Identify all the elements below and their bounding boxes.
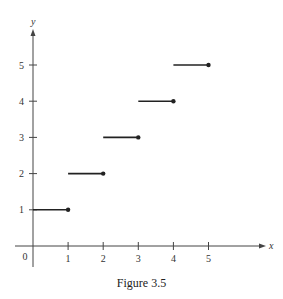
x-tick-label: 1: [66, 253, 71, 264]
y-tick-label: 5: [19, 60, 24, 71]
closed-endpoint-dot: [136, 135, 140, 139]
step-function-chart: xy01234512345: [0, 0, 283, 275]
x-axis-arrow-icon: [259, 244, 266, 249]
y-tick-label: 3: [19, 132, 24, 143]
x-tick-label: 5: [206, 253, 211, 264]
y-tick-label: 2: [19, 168, 24, 179]
y-axis-label: y: [30, 16, 36, 27]
y-tick-label: 4: [19, 96, 24, 107]
y-axis-arrow-icon: [31, 29, 36, 36]
closed-endpoint-dot: [101, 171, 105, 175]
closed-endpoint-dot: [66, 208, 70, 212]
x-axis-label: x: [268, 240, 274, 251]
y-tick-label: 1: [19, 204, 24, 215]
x-tick-label: 4: [171, 253, 176, 264]
closed-endpoint-dot: [171, 99, 175, 103]
origin-label: 0: [23, 251, 28, 262]
x-tick-label: 2: [101, 253, 106, 264]
x-tick-label: 3: [136, 253, 141, 264]
figure-caption: Figure 3.5: [0, 276, 283, 291]
closed-endpoint-dot: [206, 63, 210, 67]
